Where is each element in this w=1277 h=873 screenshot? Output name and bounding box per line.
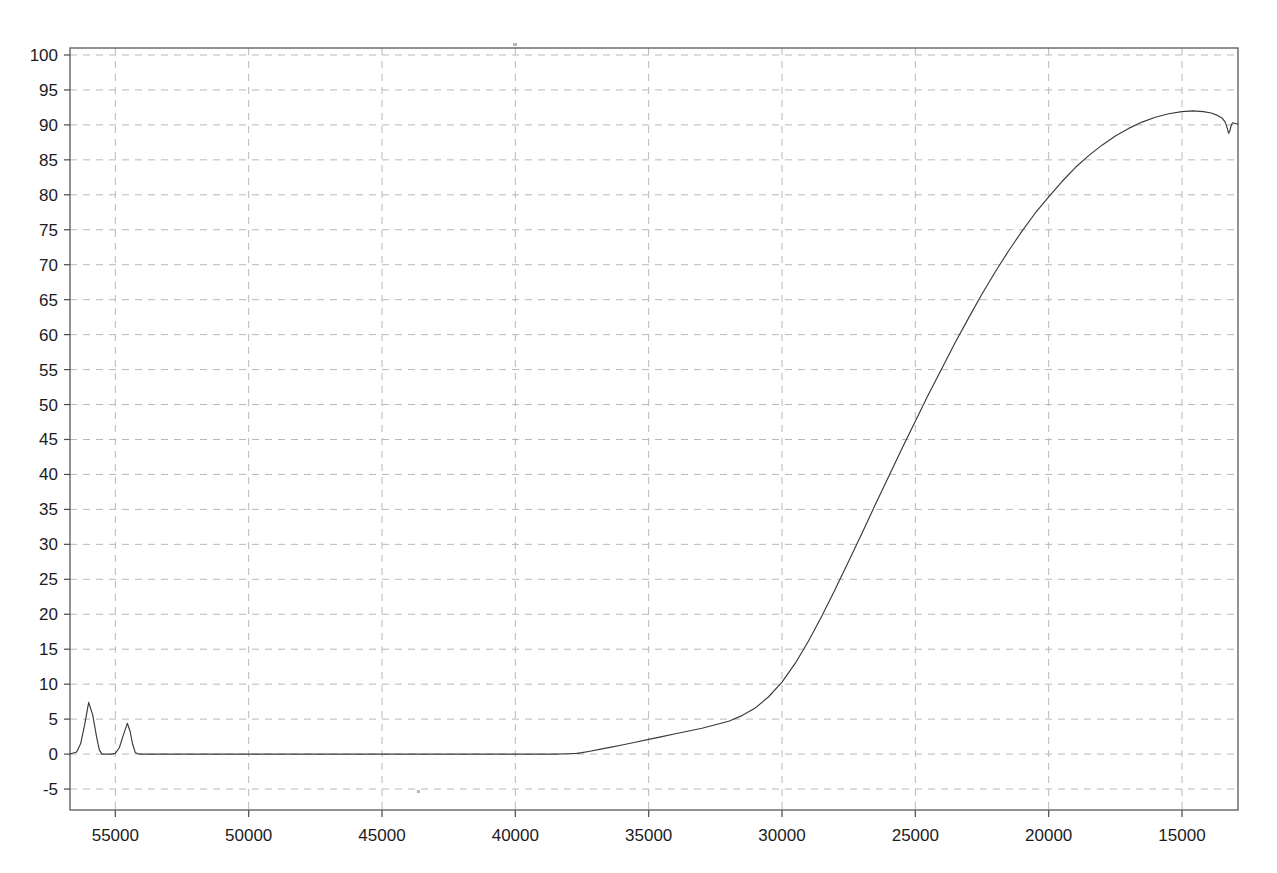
- y-tick-label-5: 5: [49, 710, 58, 729]
- y-tick-label-60: 60: [39, 326, 58, 345]
- speck-mid: [417, 790, 420, 793]
- y-tick-label-95: 95: [39, 81, 58, 100]
- x-axis-labels: 5500050000450004000035000300002500020000…: [92, 826, 1206, 845]
- y-tick-label-35: 35: [39, 500, 58, 519]
- x-tick-label-55000: 55000: [92, 826, 139, 845]
- y-tick-label-10: 10: [39, 675, 58, 694]
- x-tick-label-30000: 30000: [758, 826, 805, 845]
- y-tick-label-45: 45: [39, 430, 58, 449]
- line-chart: -505101520253035404550556065707580859095…: [0, 0, 1277, 873]
- y-tick-label-15: 15: [39, 640, 58, 659]
- x-tick-label-50000: 50000: [225, 826, 272, 845]
- y-tick-label-75: 75: [39, 221, 58, 240]
- y-tick-label-20: 20: [39, 605, 58, 624]
- chart-canvas: -505101520253035404550556065707580859095…: [0, 0, 1277, 873]
- y-tick-label-30: 30: [39, 535, 58, 554]
- y-tick-label-80: 80: [39, 186, 58, 205]
- y-tick-label-70: 70: [39, 256, 58, 275]
- y-tick-label-90: 90: [39, 116, 58, 135]
- y-tick-label-85: 85: [39, 151, 58, 170]
- y-tick-label-65: 65: [39, 291, 58, 310]
- speck-top: [513, 43, 517, 46]
- y-tick-label-25: 25: [39, 570, 58, 589]
- y-tick-label--5: -5: [43, 780, 58, 799]
- y-tick-label-100: 100: [30, 46, 58, 65]
- x-tick-label-45000: 45000: [358, 826, 405, 845]
- x-tick-label-15000: 15000: [1158, 826, 1205, 845]
- x-tick-label-35000: 35000: [625, 826, 672, 845]
- y-tick-label-0: 0: [49, 745, 58, 764]
- x-tick-label-40000: 40000: [492, 826, 539, 845]
- x-tick-label-25000: 25000: [892, 826, 939, 845]
- x-tick-label-20000: 20000: [1025, 826, 1072, 845]
- y-tick-label-55: 55: [39, 361, 58, 380]
- y-tick-label-40: 40: [39, 465, 58, 484]
- y-tick-label-50: 50: [39, 396, 58, 415]
